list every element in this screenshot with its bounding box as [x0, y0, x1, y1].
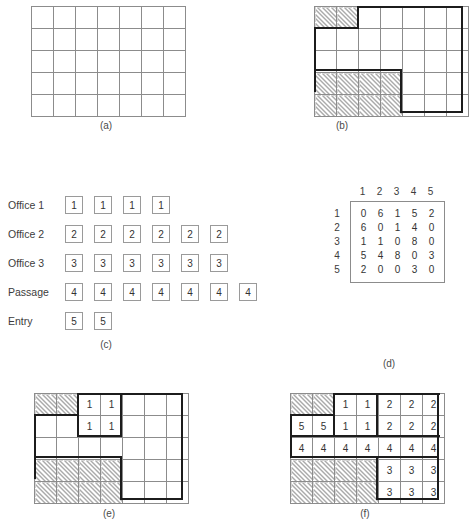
- grid-cell[interactable]: [142, 95, 164, 117]
- grid-cell[interactable]: [167, 460, 189, 482]
- grid-cell-blocked[interactable]: [79, 460, 101, 482]
- grid-cell[interactable]: 1: [357, 416, 379, 438]
- grid-cell[interactable]: [120, 95, 142, 117]
- grid-cell-blocked[interactable]: [313, 482, 335, 504]
- grid-cell[interactable]: [98, 29, 120, 51]
- grid-cell[interactable]: 4: [291, 438, 313, 460]
- grid-cell-blocked[interactable]: [337, 73, 359, 95]
- grid-cell[interactable]: 1: [101, 416, 123, 438]
- grid-cell[interactable]: [447, 7, 469, 29]
- room-cell[interactable]: 3: [123, 254, 141, 272]
- room-cell[interactable]: 3: [94, 254, 112, 272]
- grid-cell[interactable]: 3: [423, 482, 445, 504]
- grid-cell-blocked[interactable]: [57, 482, 79, 504]
- grid-cell-blocked[interactable]: [335, 482, 357, 504]
- grid-cell[interactable]: [381, 51, 403, 73]
- grid-cell[interactable]: [120, 7, 142, 29]
- grid-cell-blocked[interactable]: [315, 7, 337, 29]
- grid-cell-blocked[interactable]: [359, 95, 381, 117]
- room-cell[interactable]: 5: [65, 312, 83, 330]
- grid-cell[interactable]: 1: [79, 394, 101, 416]
- grid-cell[interactable]: [164, 73, 186, 95]
- grid-cell[interactable]: [337, 29, 359, 51]
- grid-cell[interactable]: [164, 95, 186, 117]
- room-cell[interactable]: 4: [210, 283, 228, 301]
- grid-cell-blocked[interactable]: [79, 482, 101, 504]
- grid-cell[interactable]: 1: [335, 394, 357, 416]
- grid-cell[interactable]: [403, 29, 425, 51]
- room-cell[interactable]: 3: [152, 254, 170, 272]
- room-cell[interactable]: 3: [65, 254, 83, 272]
- grid-cell[interactable]: [32, 95, 54, 117]
- grid-cell[interactable]: 2: [379, 394, 401, 416]
- grid-cell[interactable]: [98, 51, 120, 73]
- grid-cell[interactable]: 2: [423, 394, 445, 416]
- room-cell[interactable]: 1: [152, 196, 170, 214]
- grid-cell[interactable]: [425, 95, 447, 117]
- grid-cell[interactable]: [123, 416, 145, 438]
- grid-cell[interactable]: [167, 482, 189, 504]
- grid-cell[interactable]: [315, 29, 337, 51]
- grid-cell[interactable]: [425, 51, 447, 73]
- grid-cell-blocked[interactable]: [101, 482, 123, 504]
- grid-cell[interactable]: [142, 29, 164, 51]
- grid-cell[interactable]: [123, 438, 145, 460]
- grid-cell-blocked[interactable]: [35, 482, 57, 504]
- grid-cell[interactable]: [403, 51, 425, 73]
- grid-cell-blocked[interactable]: [381, 95, 403, 117]
- room-cell[interactable]: 2: [181, 225, 199, 243]
- grid-cell[interactable]: [447, 73, 469, 95]
- grid-cell[interactable]: 3: [401, 460, 423, 482]
- room-cell[interactable]: 5: [94, 312, 112, 330]
- grid-cell[interactable]: [123, 460, 145, 482]
- grid-cell-blocked[interactable]: [291, 460, 313, 482]
- grid-cell-blocked[interactable]: [35, 460, 57, 482]
- grid-cell-blocked[interactable]: [359, 73, 381, 95]
- grid-cell[interactable]: [167, 416, 189, 438]
- grid-cell[interactable]: [164, 7, 186, 29]
- grid-cell-blocked[interactable]: [291, 394, 313, 416]
- grid-cell[interactable]: [35, 416, 57, 438]
- grid-cell[interactable]: 3: [401, 482, 423, 504]
- grid-cell[interactable]: 5: [313, 416, 335, 438]
- grid-cell[interactable]: [359, 29, 381, 51]
- grid-cell[interactable]: [98, 73, 120, 95]
- room-cell[interactable]: 2: [210, 225, 228, 243]
- grid-cell[interactable]: [164, 51, 186, 73]
- grid-cell-blocked[interactable]: [57, 394, 79, 416]
- room-cell[interactable]: 2: [94, 225, 112, 243]
- grid-cell[interactable]: [164, 29, 186, 51]
- room-cell[interactable]: 1: [123, 196, 141, 214]
- grid-cell[interactable]: [337, 51, 359, 73]
- grid-cell-blocked[interactable]: [35, 394, 57, 416]
- grid-cell[interactable]: 5: [291, 416, 313, 438]
- grid-cell[interactable]: [123, 394, 145, 416]
- grid-cell[interactable]: [123, 482, 145, 504]
- grid-cell[interactable]: 2: [423, 416, 445, 438]
- grid-cell[interactable]: [32, 51, 54, 73]
- room-cell[interactable]: 3: [210, 254, 228, 272]
- room-cell[interactable]: 2: [152, 225, 170, 243]
- grid-cell[interactable]: [120, 29, 142, 51]
- grid-cell-blocked[interactable]: [315, 95, 337, 117]
- grid-cell-blocked[interactable]: [313, 460, 335, 482]
- grid-cell-blocked[interactable]: [381, 73, 403, 95]
- grid-cell[interactable]: [76, 29, 98, 51]
- grid-cell-blocked[interactable]: [57, 460, 79, 482]
- grid-cell[interactable]: [142, 7, 164, 29]
- grid-cell[interactable]: [32, 7, 54, 29]
- grid-cell[interactable]: [54, 73, 76, 95]
- grid-cell[interactable]: 4: [335, 438, 357, 460]
- room-cell[interactable]: 4: [239, 283, 257, 301]
- grid-cell[interactable]: [98, 95, 120, 117]
- grid-cell[interactable]: 4: [379, 438, 401, 460]
- grid-cell[interactable]: 4: [357, 438, 379, 460]
- room-cell[interactable]: 2: [123, 225, 141, 243]
- grid-cell[interactable]: [359, 7, 381, 29]
- grid-cell[interactable]: 2: [401, 416, 423, 438]
- grid-cell-blocked[interactable]: [315, 73, 337, 95]
- grid-cell[interactable]: 2: [401, 394, 423, 416]
- room-cell[interactable]: 1: [94, 196, 112, 214]
- room-cell[interactable]: 1: [65, 196, 83, 214]
- grid-cell[interactable]: 1: [357, 394, 379, 416]
